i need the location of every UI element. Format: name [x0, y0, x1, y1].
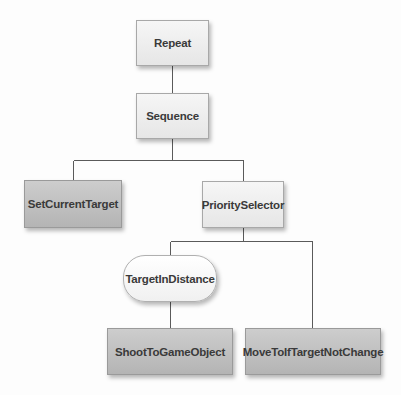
node-set-current-target: SetCurrentTarget [24, 180, 122, 228]
node-target-in-distance: TargetInDistance [123, 255, 217, 302]
node-repeat: Repeat [136, 20, 209, 66]
node-shoot-to-game-object: ShootToGameObject [107, 328, 233, 375]
node-move-to-if-target-not-change: MoveToIfTargetNotChange [245, 328, 381, 375]
node-sequence: Sequence [136, 93, 209, 139]
behavior-tree-diagram: Repeat Sequence SetCurrentTarget Priorit… [0, 0, 401, 395]
node-priority-selector: PrioritySelector [202, 181, 284, 228]
